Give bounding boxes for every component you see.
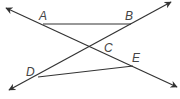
geometry-diagram: A B C E D [0,0,180,99]
label-D: D [26,65,35,79]
label-A: A [38,9,47,23]
label-E: E [132,51,141,65]
label-B: B [125,9,133,23]
label-C: C [104,41,113,55]
segment-DE [38,66,133,77]
